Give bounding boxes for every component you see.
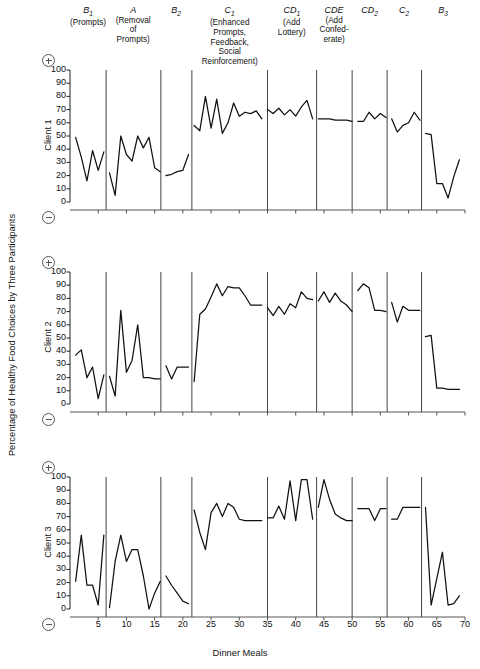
data-series-B1: [76, 535, 104, 605]
data-series-CD2: [358, 284, 386, 312]
data-series-CD1: [268, 480, 313, 521]
phase-code-subscript: 2: [177, 10, 181, 17]
data-series-B1: [76, 137, 104, 181]
data-series-C2: [392, 112, 420, 132]
data-series-B2: [166, 366, 189, 379]
phase-code: B3: [407, 6, 479, 18]
data-series-C2: [392, 507, 420, 519]
data-series-CD1: [268, 292, 313, 316]
phase-code-subscript: 3: [444, 10, 448, 17]
data-series-B3: [426, 133, 460, 198]
plot-area-client-2: [0, 266, 480, 428]
phase-code-subscript: 1: [89, 10, 93, 17]
data-series-CD2: [358, 112, 386, 121]
phase-header-B3: B3: [407, 6, 479, 18]
data-series-A: [110, 136, 161, 195]
data-series-CDE: [318, 480, 352, 521]
data-series-A: [110, 535, 161, 609]
data-series-C1: [194, 284, 262, 382]
data-series-B2: [166, 154, 189, 175]
phase-description: (Removal of Prompts): [97, 16, 169, 45]
data-series-CD2: [358, 509, 386, 521]
data-series-B3: [426, 507, 460, 605]
data-series-CDE: [318, 292, 352, 312]
single-case-design-figure: Percentage of Healthy Food Choices by Th…: [0, 0, 480, 669]
data-series-A: [110, 310, 161, 396]
data-series-C2: [392, 302, 420, 322]
data-series-CD1: [268, 100, 313, 118]
plot-area-client-1: [0, 64, 480, 226]
phase-code-subscript: 1: [231, 10, 235, 17]
data-series-B1: [76, 350, 104, 399]
phase-description: (Add Confed- erate): [298, 16, 370, 45]
data-series-C1: [194, 503, 262, 549]
plot-area-client-3: [0, 471, 480, 633]
data-series-C1: [194, 96, 262, 133]
data-series-CDE: [318, 119, 352, 122]
data-series-B2: [166, 576, 189, 604]
data-series-B3: [426, 335, 460, 389]
x-axis-label: Dinner Meals: [0, 648, 480, 658]
